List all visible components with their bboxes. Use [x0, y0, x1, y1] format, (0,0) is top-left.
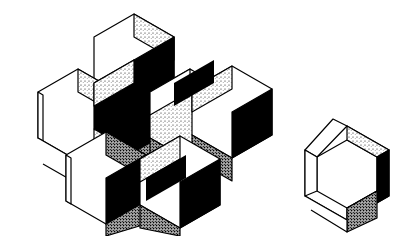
left-edge-line [66, 155, 71, 204]
left-edge-line [38, 92, 43, 141]
hex-cube-illusion-figure: Hexagonal cube-illusion tiling Line draw… [0, 0, 406, 236]
upper-left-face [305, 150, 317, 196]
